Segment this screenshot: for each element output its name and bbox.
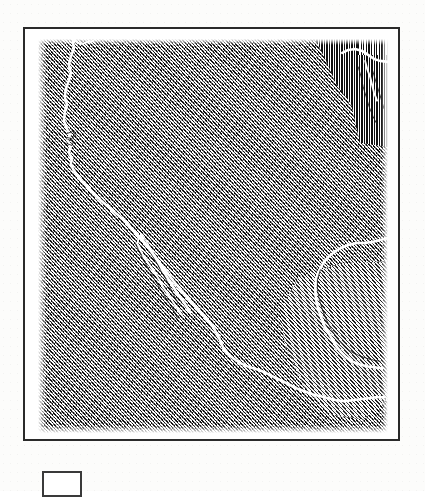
baja-east-coast-path (137, 234, 182, 316)
yucatan-interior-edge (317, 270, 380, 362)
sonora-sinaloa-coast-path (143, 241, 224, 349)
legend-scale-box (42, 471, 82, 497)
map-plate-margin (25, 29, 398, 439)
coastline-overlay (38, 39, 388, 433)
north-edge-coast-stub (74, 39, 94, 44)
map-body (38, 39, 388, 433)
map-plate-frame (23, 27, 400, 441)
pacific-coastline-path (64, 41, 144, 242)
gulf-of-mexico-coast-path (315, 238, 388, 368)
southern-mexico-coast-path (224, 349, 384, 401)
